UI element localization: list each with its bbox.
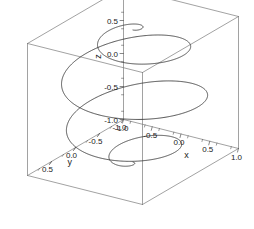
plot-canvas: 1.00.50.0-0.5-1.0z0.50.0-0.5-1.0y-1.0-0.… [0,0,254,229]
x-axis-title: x [184,150,189,160]
x-tick-minor-1 [144,125,145,127]
x-tick-label-4: 1.0 [231,153,243,162]
z-tick-label-3: -0.5 [104,83,118,92]
x-tick-label-2: 0.0 [173,138,185,147]
box-edge-5 [143,149,239,205]
x-tick-minor-5 [202,139,203,141]
z-axis-title: z [93,54,103,59]
x-tick-minor-0 [130,121,131,123]
x-tick-minor-4 [188,136,189,138]
x-tick-minor-6 [216,143,217,145]
x-tick-minor-3 [173,132,174,134]
curve-spherical-spiral [62,24,208,166]
x-tick-label-1: -0.5 [143,131,157,140]
x-tick-minor-7 [231,147,232,149]
bounding-box-wireframe [28,0,239,205]
plot-3d-spherical-spiral: 1.00.50.0-0.5-1.0z0.50.0-0.5-1.0y-1.0-0.… [0,0,254,229]
y-tick-label-2: -0.5 [89,137,103,146]
y-tick-label-0: 0.5 [42,165,54,174]
x-tick-label-0: -1.0 [115,124,129,133]
box-edge-6 [28,176,143,205]
box-edge-2 [28,44,143,73]
x-tick-label-3: 0.5 [202,145,214,154]
z-tick-label-2: 0.0 [107,50,119,59]
spherical-spiral-curve [62,24,208,166]
box-edge-0 [124,0,239,17]
y-axis-title: y [67,157,72,167]
z-tick-label-1: 0.5 [107,17,119,26]
x-tick-minor-2 [159,129,160,131]
